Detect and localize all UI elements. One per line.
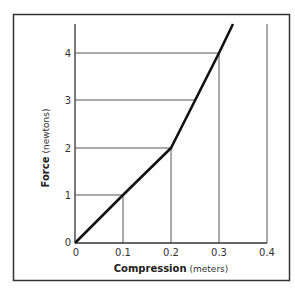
x-tick-3: 0.3 [211,247,227,258]
y-tick-4: 4 [65,48,71,59]
guide-lines [75,24,267,243]
y-tick-2: 2 [65,143,71,154]
y-tick-3: 3 [65,95,71,106]
data-line [75,24,233,243]
x-tick-2: 0.2 [163,247,179,258]
y-tick-1: 1 [65,190,71,201]
x-tick-0: 0 [73,247,79,258]
y-axis-label: Force(newtons) [40,109,51,188]
y-tick-labels: 0 1 2 3 4 [65,48,71,248]
y-tick-0: 0 [65,237,71,248]
x-tick-1: 0.1 [115,247,131,258]
x-axis-label: Compression(meters) [114,263,229,274]
x-tick-4: 0.4 [259,247,275,258]
chart: 0 1 2 3 4 0 0.1 0.2 0.3 0.4 Compression(… [0,0,295,291]
x-tick-labels: 0 0.1 0.2 0.3 0.4 [73,247,275,258]
chart-frame [14,15,290,281]
